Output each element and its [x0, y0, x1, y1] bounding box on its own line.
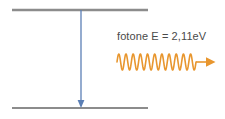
photon-arrow-head — [206, 57, 216, 67]
energy-level-diagram: fotone E = 2,11eV — [0, 0, 225, 119]
transition-arrow-head — [78, 100, 85, 108]
photon-wave-path — [117, 54, 196, 70]
photon-energy-label: fotone E = 2,11eV — [117, 30, 206, 43]
photon-wave-arrow — [117, 54, 216, 70]
downward-transition-arrow — [78, 10, 85, 108]
diagram-canvas — [0, 0, 225, 119]
